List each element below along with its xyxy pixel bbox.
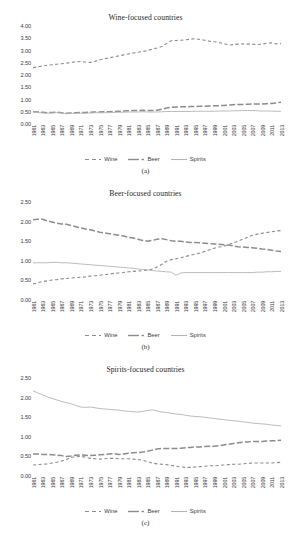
x-tick-label: 1973 [88, 477, 94, 488]
x-tick-label: 1979 [117, 125, 123, 136]
x-tick-label: 1991 [174, 477, 180, 488]
y-tick-label: 0.50 [3, 109, 31, 115]
x-tick-label: 2005 [241, 125, 247, 136]
legend-swatch-spirits-icon [171, 509, 187, 514]
legend-item-wine: Wine [85, 332, 117, 338]
x-tick-label: 1987 [155, 301, 161, 312]
x-tick-label: 2009 [260, 301, 266, 312]
x-tick-label: 2005 [241, 301, 247, 312]
x-tick-label: 1993 [183, 477, 189, 488]
x-axis-c: 1961196319651967196919711973197519771979… [33, 477, 281, 507]
x-tick-label: 1963 [40, 301, 46, 312]
x-tick-label: 1979 [117, 301, 123, 312]
legend-item-beer: Beer [128, 508, 159, 514]
legend-item-spirits: Spirits [171, 332, 206, 338]
x-tick-label: 2013 [279, 301, 285, 312]
legend-label-beer: Beer [147, 508, 159, 514]
x-tick-label: 1967 [59, 125, 65, 136]
x-axis-a: 1961196319651967196919711973197519771979… [33, 125, 281, 155]
y-tick-label: 2.00 [3, 219, 31, 225]
y-tick-label: 1.00 [3, 434, 31, 440]
x-tick-label: 1971 [78, 125, 84, 136]
series-line-wine [33, 39, 281, 68]
plot-area-b [33, 202, 281, 300]
legend-item-wine: Wine [85, 508, 117, 514]
x-tick-label: 1975 [98, 125, 104, 136]
legend-swatch-beer-icon [128, 333, 144, 338]
x-tick-label: 2001 [222, 301, 228, 312]
legend-label-beer: Beer [147, 156, 159, 162]
x-tick-label: 1967 [59, 301, 65, 312]
y-tick-label: 1.50 [3, 84, 31, 90]
y-tick-label: 0.00 [3, 297, 31, 303]
x-axis-b: 1961196319651967196919711973197519771979… [33, 301, 281, 331]
x-tick-label: 1993 [183, 125, 189, 136]
x-tick-label: 1987 [155, 125, 161, 136]
legend-item-wine: Wine [85, 156, 117, 162]
plot-area-a [33, 26, 281, 124]
x-tick-label: 1983 [136, 301, 142, 312]
y-tick-label: 2.50 [3, 199, 31, 205]
x-tick-label: 2009 [260, 125, 266, 136]
y-tick-label: 4.00 [3, 23, 31, 29]
y-tick-label: 1.50 [3, 414, 31, 420]
x-tick-label: 1997 [202, 125, 208, 136]
x-tick-label: 2007 [250, 125, 256, 136]
x-tick-label: 1999 [212, 477, 218, 488]
chart-panel-c: Spirits-focused countries 0.000.501.001.… [0, 362, 291, 538]
x-tick-label: 1961 [31, 477, 37, 488]
x-tick-label: 1971 [78, 301, 84, 312]
x-tick-label: 2003 [231, 477, 237, 488]
y-tick-label: 3.00 [3, 48, 31, 54]
x-tick-label: 1969 [69, 477, 75, 488]
x-tick-label: 1999 [212, 125, 218, 136]
legend-swatch-wine-icon [85, 509, 101, 514]
legend-swatch-beer-icon [128, 509, 144, 514]
plot-lines-c [33, 378, 281, 476]
x-tick-label: 2001 [222, 125, 228, 136]
x-tick-label: 1975 [98, 301, 104, 312]
x-tick-label: 1975 [98, 477, 104, 488]
chart-panel-a: Wine-focused countries 0.000.501.001.502… [0, 10, 291, 186]
x-tick-label: 1991 [174, 125, 180, 136]
legend-swatch-wine-icon [85, 157, 101, 162]
legend-swatch-spirits-icon [171, 333, 187, 338]
series-line-beer [33, 219, 281, 251]
y-tick-label: 1.00 [3, 97, 31, 103]
legend-item-spirits: Spirits [171, 508, 206, 514]
x-tick-label: 1999 [212, 301, 218, 312]
y-tick-label: 0.50 [3, 453, 31, 459]
x-tick-label: 1983 [136, 477, 142, 488]
x-tick-label: 1967 [59, 477, 65, 488]
x-tick-label: 2007 [250, 477, 256, 488]
legend-c: Wine Beer Spirits [0, 508, 291, 514]
x-tick-label: 1983 [136, 125, 142, 136]
alcohol-consumption-figure: Wine-focused countries 0.000.501.001.502… [0, 0, 291, 545]
chart-title-a: Wine-focused countries [0, 13, 291, 22]
x-tick-label: 1977 [107, 477, 113, 488]
chart-title-b: Beer-focused countries [0, 189, 291, 198]
x-tick-label: 1969 [69, 301, 75, 312]
legend-label-spirits: Spirits [190, 332, 206, 338]
chart-caption-b: (b) [0, 343, 291, 351]
plot-lines-a [33, 26, 281, 124]
x-tick-label: 1963 [40, 477, 46, 488]
series-line-spirits [33, 262, 281, 275]
y-tick-label: 2.00 [3, 72, 31, 78]
x-tick-label: 2009 [260, 477, 266, 488]
x-tick-label: 2011 [269, 477, 275, 488]
series-line-wine [33, 456, 281, 467]
x-tick-label: 2001 [222, 477, 228, 488]
x-tick-label: 1961 [31, 125, 37, 136]
x-tick-label: 1995 [193, 301, 199, 312]
x-tick-label: 1987 [155, 477, 161, 488]
x-tick-label: 1991 [174, 301, 180, 312]
legend-swatch-spirits-icon [171, 157, 187, 162]
legend-label-spirits: Spirits [190, 508, 206, 514]
x-tick-label: 1995 [193, 125, 199, 136]
y-axis-c: 0.000.501.001.502.002.50 [0, 378, 31, 476]
x-tick-label: 1977 [107, 125, 113, 136]
y-tick-label: 0.00 [3, 473, 31, 479]
x-tick-label: 1997 [202, 477, 208, 488]
chart-caption-c: (c) [0, 519, 291, 527]
